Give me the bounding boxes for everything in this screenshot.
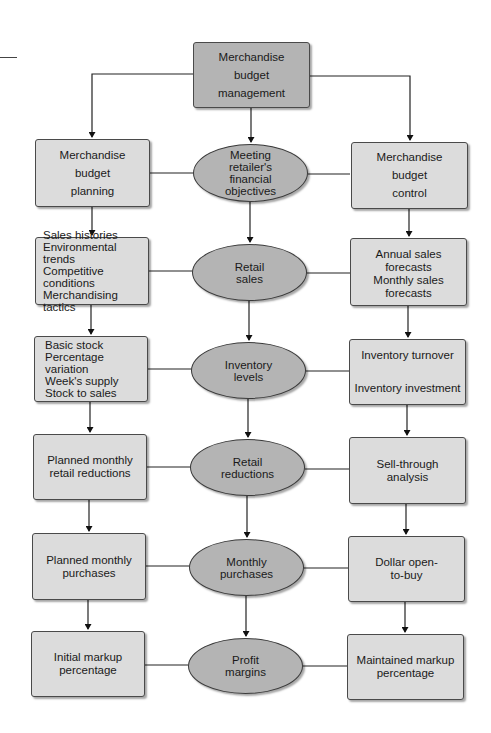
box-line: budget xyxy=(234,69,269,82)
ellipse-line: Monthly xyxy=(226,556,266,568)
box-line: Competitive conditions xyxy=(43,265,148,289)
box-line: percentage xyxy=(59,664,117,677)
box-line: purchases xyxy=(62,567,115,580)
box-line: Basic stock xyxy=(45,339,103,351)
ellipse-line: sales xyxy=(236,273,263,285)
box-line: Monthly sales forecasts xyxy=(351,274,466,300)
box-line: Inventory investment xyxy=(354,382,460,395)
box-line: retail reductions xyxy=(49,467,130,480)
box-line: Merchandise xyxy=(219,51,285,64)
box-line: Sell-through xyxy=(376,458,438,471)
box-line: analysis xyxy=(387,471,429,484)
inventory-levels-ellipse: Inventory levels xyxy=(191,342,306,399)
sales-factors-box: Sales histories Environmental trends Com… xyxy=(35,237,149,305)
sales-forecasts-box: Annual sales forecasts Monthly sales for… xyxy=(350,238,467,306)
ellipse-line: Retail xyxy=(235,261,264,273)
planned-retail-reductions-box: Planned monthly retail reductions xyxy=(33,434,147,500)
box-line: planning xyxy=(71,185,114,198)
box-line: control xyxy=(392,187,427,200)
retail-reductions-ellipse: Retail reductions xyxy=(190,439,305,496)
merchandise-budget-management-box: Merchandise budget management xyxy=(193,42,310,108)
box-line: Inventory turnover xyxy=(361,349,454,362)
box-line: Planned monthly xyxy=(46,554,132,567)
box-line: budget xyxy=(75,167,110,180)
profit-margins-ellipse: Profit margins xyxy=(188,638,303,694)
sell-through-analysis-box: Sell-through analysis xyxy=(349,437,466,504)
box-line: Initial markup xyxy=(54,651,122,664)
ellipse-line: Meeting xyxy=(230,149,271,161)
initial-markup-box: Initial markup percentage xyxy=(31,631,145,697)
box-line: Week's supply xyxy=(45,375,119,387)
budget-planning-box: Merchandise budget planning xyxy=(35,139,150,207)
ellipse-line: Inventory xyxy=(225,359,272,371)
ellipse-line: Profit xyxy=(232,654,259,666)
box-line: budget xyxy=(392,169,427,182)
box-line: to-buy xyxy=(391,569,423,582)
inventory-measures-box: Inventory turnover Inventory investment xyxy=(349,339,466,405)
box-line: Merchandise xyxy=(60,149,126,162)
ellipse-line: purchases xyxy=(220,568,273,580)
box-line: percentage xyxy=(377,667,435,680)
planned-monthly-purchases-box: Planned monthly purchases xyxy=(32,533,146,600)
merchandise-budget-flowchart: Merchandise budget management Merchandis… xyxy=(0,0,491,733)
box-line: Sales histories xyxy=(43,229,118,241)
box-line: management xyxy=(218,87,285,100)
box-line: Environmental trends xyxy=(43,241,148,265)
page-rule xyxy=(0,57,17,58)
box-line: Percentage variation xyxy=(45,351,147,375)
dollar-open-to-buy-box: Dollar open- to-buy xyxy=(348,536,465,602)
financial-objectives-ellipse: Meeting retailer's financial objectives xyxy=(193,144,308,202)
monthly-purchases-ellipse: Monthly purchases xyxy=(189,539,304,596)
box-line: Dollar open- xyxy=(375,556,438,569)
ellipse-line: reductions xyxy=(221,468,274,480)
ellipse-line: levels xyxy=(234,371,263,383)
box-line: Stock to sales xyxy=(45,387,117,399)
ellipse-line: objectives xyxy=(225,185,276,197)
box-line: Maintained markup xyxy=(357,654,455,667)
box-line: Annual sales forecasts xyxy=(351,248,466,274)
ellipse-line: Retail xyxy=(233,456,262,468)
ellipse-line: financial xyxy=(229,173,271,185)
ellipse-line: retailer's xyxy=(229,161,272,173)
maintained-markup-box: Maintained markup percentage xyxy=(347,634,464,700)
box-line: Merchandise xyxy=(377,151,443,164)
stock-methods-box: Basic stock Percentage variation Week's … xyxy=(34,336,148,402)
retail-sales-ellipse: Retail sales xyxy=(192,244,307,301)
budget-control-box: Merchandise budget control xyxy=(351,142,468,209)
ellipse-line: margins xyxy=(225,666,266,678)
box-line: Planned monthly xyxy=(47,454,133,467)
box-line: Merchandising tactics xyxy=(43,289,148,313)
